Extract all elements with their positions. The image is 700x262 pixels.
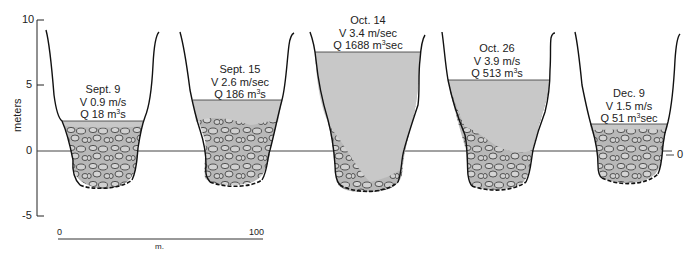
y-tick-5: 5	[26, 78, 32, 90]
y-tick-0: 0	[26, 144, 32, 156]
y-axis-label: meters	[11, 98, 23, 132]
label-sept-9: Sept. 9 V 0.9 m/s Q 18 m3s	[80, 83, 126, 121]
y-tick-neg5: -5	[22, 209, 32, 221]
label-oct-26: Oct. 26 V 3.9 m/s Q 513 m3s	[471, 42, 523, 80]
label-dec-9: Dec. 9 V 1.5 m/s Q 51 m3sec	[600, 87, 657, 125]
label-sept-15: Sept. 15 V 2.6 m/sec Q 186 m3s	[211, 63, 269, 101]
section-sept-15	[180, 32, 294, 186]
scale-start: 0	[57, 227, 62, 237]
section-oct-14	[310, 32, 425, 192]
right-zero-label: 0	[677, 148, 683, 160]
scale-end: 100	[249, 227, 264, 237]
scale-unit: m.	[155, 242, 164, 251]
y-axis	[37, 20, 44, 216]
y-tick-10: 10	[22, 13, 34, 25]
label-oct-14: Oct. 14 V 3.4 m/sec Q 1688 m3sec	[333, 14, 402, 52]
